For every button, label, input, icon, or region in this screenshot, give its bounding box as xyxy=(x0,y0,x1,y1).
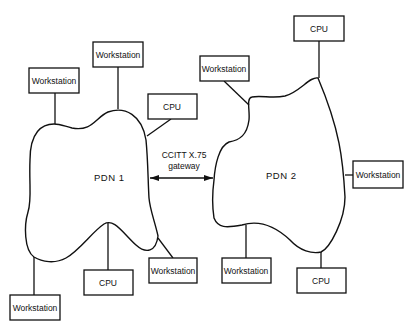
link-pdn1-ws-bottomright xyxy=(158,238,173,258)
node-workstation: Workstation xyxy=(149,258,197,283)
pdn1-cloud xyxy=(26,110,158,261)
node-workstation: Workstation xyxy=(222,258,271,283)
gateway-label-line1: CCITT X.75 xyxy=(162,150,207,160)
network-diagram: CCITT X.75 gateway PDN 1 PDN 2 Workstati… xyxy=(0,0,418,334)
svg-text:CPU: CPU xyxy=(163,102,181,112)
svg-text:CPU: CPU xyxy=(99,278,117,288)
svg-text:Workstation: Workstation xyxy=(151,266,196,276)
svg-text:Workstation: Workstation xyxy=(13,303,58,313)
node-workstation: Workstation xyxy=(29,68,79,93)
node-cpu: CPU xyxy=(84,270,133,295)
pdn1-label: PDN 1 xyxy=(94,172,124,183)
gateway-label-line2: gateway xyxy=(168,161,200,171)
node-workstation: Workstation xyxy=(200,56,249,81)
svg-text:CPU: CPU xyxy=(310,24,328,34)
pdn2-label: PDN 2 xyxy=(266,170,296,181)
node-cpu: CPU xyxy=(148,94,197,119)
node-workstation: Workstation xyxy=(10,295,60,320)
node-workstation: Workstation xyxy=(93,42,143,67)
node-cpu: CPU xyxy=(297,268,346,293)
svg-text:Workstation: Workstation xyxy=(224,266,269,276)
gateway-arrow xyxy=(150,175,213,181)
node-workstation: Workstation xyxy=(353,161,403,188)
pdn2-cloud xyxy=(213,78,346,253)
svg-text:CPU: CPU xyxy=(312,276,330,286)
link-pdn2-ws-topleft xyxy=(224,81,249,105)
node-cpu: CPU xyxy=(294,16,344,41)
svg-text:Workstation: Workstation xyxy=(202,64,247,74)
svg-text:Workstation: Workstation xyxy=(96,50,141,60)
svg-text:Workstation: Workstation xyxy=(356,170,401,180)
link-pdn1-cpu-topright xyxy=(147,119,171,136)
svg-text:Workstation: Workstation xyxy=(32,76,77,86)
